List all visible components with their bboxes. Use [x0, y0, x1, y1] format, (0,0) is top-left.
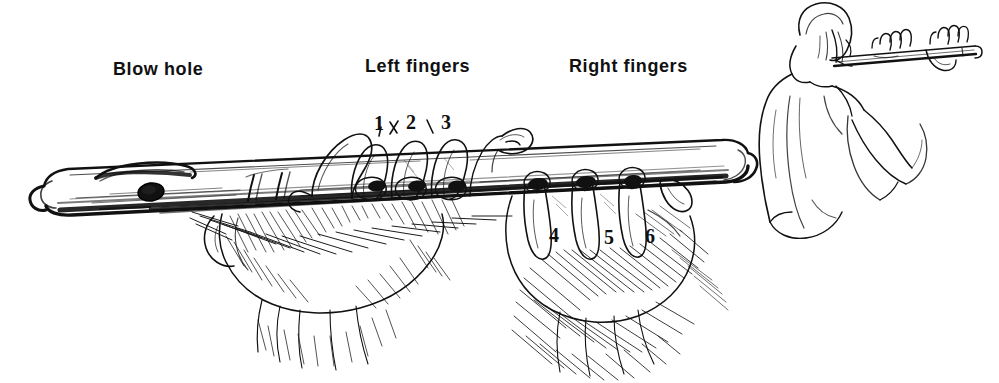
- left-hand-shading: [226, 200, 464, 366]
- right-hand-shading: [512, 230, 708, 380]
- hole-number-2: 2: [406, 112, 416, 132]
- hole-number-5: 5: [604, 227, 614, 247]
- left-hand: [204, 129, 532, 370]
- diagram-artwork: [0, 0, 999, 383]
- label-left-fingers: Left fingers: [365, 57, 470, 75]
- hole-number-6: 6: [645, 226, 655, 246]
- right-wrist-shading: [636, 206, 728, 310]
- flute-fingering-diagram: Blow hole Left fingers Right fingers 1 2…: [0, 0, 999, 383]
- flute-body: [30, 140, 757, 215]
- label-right-fingers: Right fingers: [569, 57, 688, 75]
- hole-number-3: 3: [441, 112, 451, 132]
- label-blow-hole: Blow hole: [113, 60, 203, 78]
- hole-number-1: 1: [374, 113, 384, 133]
- hole-number-4: 4: [549, 225, 559, 245]
- player-figure-inset: [759, 3, 982, 239]
